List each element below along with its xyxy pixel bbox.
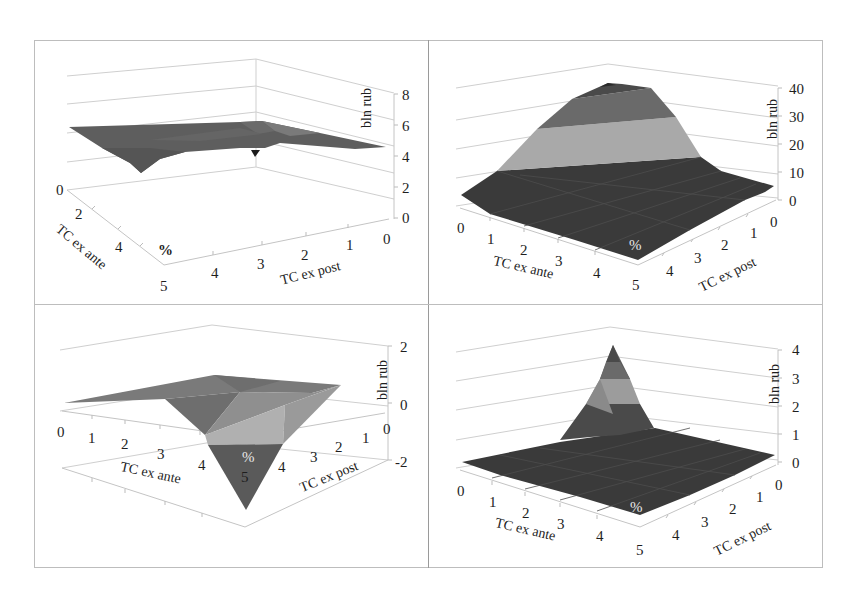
- x-tick-label: 5: [636, 543, 644, 558]
- chart-bottom-right: 4 3 2 1 0 bln rub 0 1 2 3 4 5 TC ex ante…: [0, 0, 853, 601]
- z-axis-title: bln rub: [768, 364, 782, 404]
- z-tick-label: 4: [792, 343, 800, 358]
- x-tick-label: 3: [557, 517, 565, 532]
- surface-plot-bottom-right: [0, 0, 853, 601]
- y-tick-label: 4: [672, 528, 680, 543]
- y-tick-label: 3: [701, 515, 709, 530]
- x-tick-label: 1: [489, 495, 497, 510]
- unit-percent-label: %: [630, 500, 643, 515]
- x-tick-label: 0: [457, 484, 465, 499]
- z-tick-label: 3: [792, 372, 800, 387]
- z-tick-label: 2: [792, 400, 800, 415]
- y-tick-label: 0: [775, 478, 783, 493]
- z-tick-label: 0: [792, 456, 800, 471]
- y-tick-label: 2: [729, 502, 737, 517]
- x-tick-label: 2: [522, 506, 530, 521]
- z-tick-label: 1: [792, 428, 800, 443]
- surface-bottom-right: [462, 345, 775, 515]
- x-tick-label: 4: [596, 529, 604, 544]
- y-tick-label: 1: [756, 490, 764, 505]
